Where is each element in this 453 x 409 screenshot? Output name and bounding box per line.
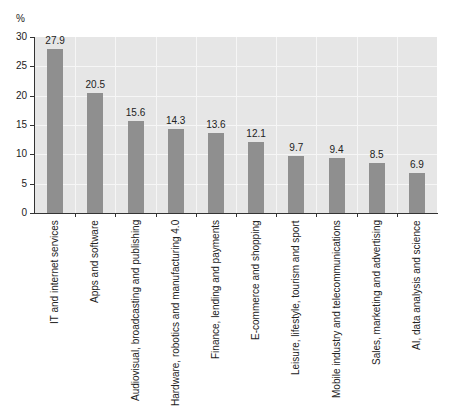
gridline-vertical — [115, 37, 116, 213]
bar — [168, 129, 184, 213]
gridline-vertical — [236, 37, 237, 213]
x-tick-mark — [397, 213, 398, 217]
bar — [47, 49, 63, 213]
bar — [369, 163, 385, 213]
x-tick-mark — [115, 213, 116, 217]
bar-value-label: 8.5 — [357, 150, 397, 160]
bar-chart: % 051015202530 27.9IT and internet servi… — [0, 0, 453, 409]
x-category-label: Finance, lending and payments — [210, 220, 221, 359]
bar — [128, 121, 144, 213]
y-axis-line — [34, 37, 35, 214]
y-tick-label: 5 — [0, 179, 27, 189]
y-tick-mark — [30, 66, 34, 67]
y-tick-label: 25 — [0, 61, 27, 71]
bar — [409, 173, 425, 213]
x-category-label: E-commerce and shopping — [250, 220, 261, 340]
bar — [87, 93, 103, 213]
x-category-label: Mobile industry and telecommunications — [331, 220, 342, 398]
gridline-vertical — [316, 37, 317, 213]
x-category-label: Apps and software — [89, 220, 100, 303]
x-tick-mark — [357, 213, 358, 217]
bar-value-label: 9.4 — [317, 145, 357, 155]
y-tick-mark — [30, 154, 34, 155]
bar — [288, 156, 304, 213]
x-category-label: IT and internet services — [49, 220, 60, 324]
x-category-label: Sales, marketing and advertising — [371, 220, 382, 365]
bar-value-label: 12.1 — [236, 129, 276, 139]
bar-value-label: 9.7 — [276, 143, 316, 153]
y-tick-label: 20 — [0, 91, 27, 101]
x-tick-mark — [276, 213, 277, 217]
bar-value-label: 13.6 — [196, 120, 236, 130]
y-tick-label: 10 — [0, 149, 27, 159]
y-tick-label: 15 — [0, 120, 27, 130]
bar — [208, 133, 224, 213]
bar-value-label: 15.6 — [116, 108, 156, 118]
y-tick-mark — [30, 213, 34, 214]
y-tick-label: 30 — [0, 32, 27, 42]
bar-value-label: 20.5 — [75, 80, 115, 90]
x-tick-mark — [156, 213, 157, 217]
x-tick-mark — [236, 213, 237, 217]
bar-value-label: 14.3 — [156, 116, 196, 126]
x-tick-mark — [75, 213, 76, 217]
gridline-vertical — [75, 37, 76, 213]
x-category-label: AI, data analysis and science — [411, 220, 422, 350]
y-tick-mark — [30, 96, 34, 97]
y-tick-label: 0 — [0, 208, 27, 218]
bar-value-label: 6.9 — [397, 160, 437, 170]
gridline-vertical — [357, 37, 358, 213]
gridline-vertical — [276, 37, 277, 213]
y-axis-unit-label: % — [16, 13, 25, 24]
x-category-label: Audiovisual, broadcasting and publishing — [130, 220, 141, 401]
x-tick-mark — [196, 213, 197, 217]
y-tick-mark — [30, 184, 34, 185]
gridline-vertical — [397, 37, 398, 213]
bar-value-label: 27.9 — [35, 36, 75, 46]
y-tick-mark — [30, 125, 34, 126]
x-category-label: Leisure, lifestyle, tourism and sport — [290, 220, 301, 375]
y-tick-mark — [30, 37, 34, 38]
bar — [248, 142, 264, 213]
x-category-label: Hardware, robotics and manufacturing 4.0 — [170, 220, 181, 406]
x-tick-mark — [316, 213, 317, 217]
bar — [329, 158, 345, 213]
